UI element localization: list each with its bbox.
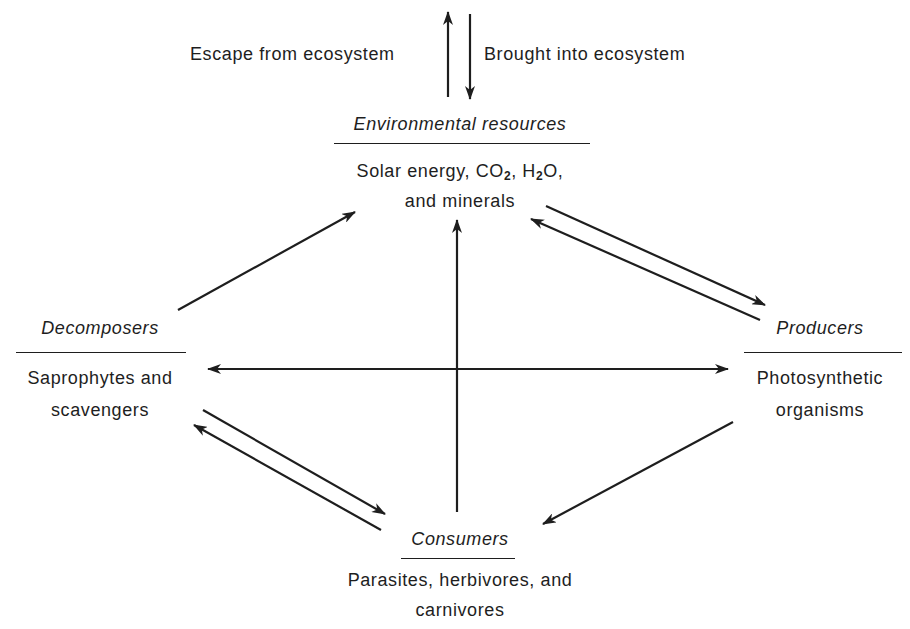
node-desc-line1: Parasites, herbivores, and: [300, 569, 620, 591]
title-divider: [401, 558, 515, 559]
brought-in-label: Brought into ecosystem: [484, 43, 685, 65]
node-desc-line2: and minerals: [310, 190, 610, 212]
node-title: Environmental resources: [320, 113, 600, 135]
decomposers-to-environment-arrow: [178, 212, 355, 310]
producers-to-environment-arrow: [531, 219, 760, 320]
title-divider: [16, 352, 186, 353]
decomposers-to-consumers-arrow: [203, 410, 385, 514]
environment-to-producers-arrow: [546, 206, 765, 305]
node-desc-line2: scavengers: [0, 399, 200, 421]
node-desc-line1: Photosynthetic: [730, 367, 910, 389]
node-desc-line1: Solar energy, CO2, H2O,: [310, 160, 610, 182]
node-title: Decomposers: [0, 317, 200, 339]
node-title: Consumers: [380, 528, 540, 550]
title-divider: [744, 352, 902, 353]
node-desc-line2: organisms: [730, 399, 910, 421]
title-divider: [334, 143, 590, 144]
node-desc-line2: carnivores: [300, 599, 620, 621]
escape-label: Escape from ecosystem: [190, 43, 395, 65]
node-desc-line1: Saprophytes and: [0, 367, 200, 389]
node-title: Producers: [740, 317, 900, 339]
consumers-to-decomposers-arrow: [194, 425, 381, 530]
producers-to-consumers-arrow: [543, 422, 733, 524]
